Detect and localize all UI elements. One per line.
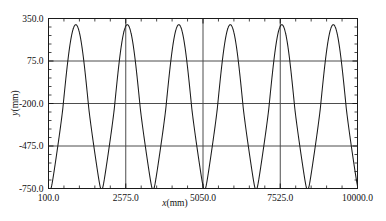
x-axis-title: x(mm) <box>161 198 187 209</box>
y-tick-label: -475.0 <box>19 141 44 151</box>
y-tick-label: 75.0 <box>27 56 44 66</box>
y-tick-label: -200.0 <box>19 99 44 109</box>
svg-text:y(mm): y(mm) <box>10 90 21 116</box>
x-tick-label: 100.0 <box>38 193 60 203</box>
y-axis-title: y(mm) <box>10 90 21 116</box>
y-axis-title-unit: (mm) <box>10 90 21 111</box>
x-tick-label: 7525.0 <box>267 193 293 203</box>
chart-figure: 350.075.0-200.0-475.0-750.0 100.02575.05… <box>0 0 386 221</box>
x-axis-title-unit: (mm) <box>167 198 188 209</box>
x-tick-label: 2575.0 <box>113 193 139 203</box>
x-tick-label: 5050.0 <box>190 193 216 203</box>
y-tick-label: 350.0 <box>22 14 44 24</box>
svg-text:x(mm): x(mm) <box>161 198 187 209</box>
lissajous-plot: 350.075.0-200.0-475.0-750.0 100.02575.05… <box>0 0 386 221</box>
x-tick-label: 10000.0 <box>342 193 373 203</box>
plot-background <box>0 0 386 221</box>
